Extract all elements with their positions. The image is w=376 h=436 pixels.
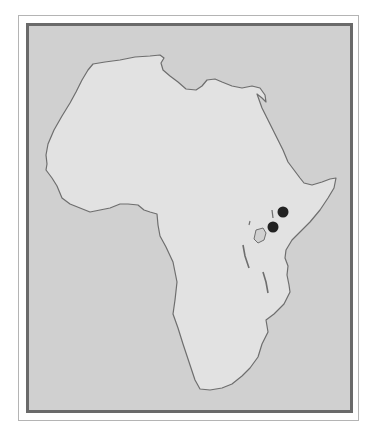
africa-landmass bbox=[46, 55, 336, 390]
location-marker bbox=[278, 207, 289, 218]
africa-map bbox=[0, 0, 376, 436]
location-marker bbox=[268, 222, 279, 233]
